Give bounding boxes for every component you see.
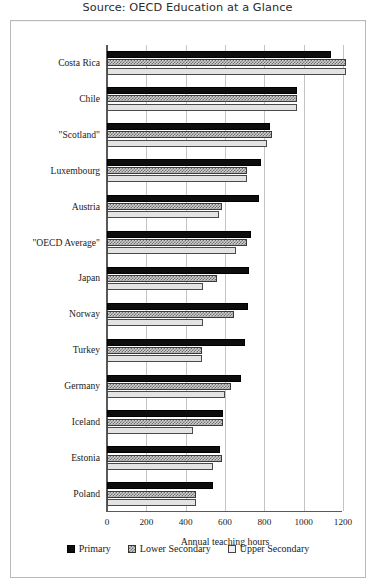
y-axis-label-iceland: Iceland <box>72 417 100 427</box>
category-row: Germany <box>107 368 342 404</box>
legend-label-upper-secondary: Upper Secondary <box>240 543 310 554</box>
category-row: "Scotland" <box>107 117 342 153</box>
bar-lower <box>107 239 247 246</box>
bar-upper <box>107 140 267 147</box>
bar-primary <box>107 267 249 274</box>
x-tick-label-1200: 1200 <box>334 517 352 527</box>
y-axis-label-turkey: Turkey <box>73 345 100 355</box>
y-axis-label-chile: Chile <box>79 94 100 104</box>
y-axis-label-poland: Poland <box>73 489 100 499</box>
bar-primary <box>107 410 223 417</box>
bar-upper <box>107 427 193 434</box>
x-tick-label-0: 0 <box>105 517 110 527</box>
bar-lower <box>107 131 272 138</box>
y-axis-label-germany: Germany <box>64 381 100 391</box>
chart-figure: Source: OECD Education at a Glance Annua… <box>0 0 375 584</box>
y-axis-label-austria: Austria <box>72 202 100 212</box>
category-row: Norway <box>107 296 342 332</box>
bar-primary <box>107 482 213 489</box>
bar-lower <box>107 95 297 102</box>
bar-upper <box>107 463 213 470</box>
bar-primary <box>107 51 331 58</box>
x-tick-label-400: 400 <box>179 517 193 527</box>
x-tick-label-600: 600 <box>218 517 232 527</box>
y-axis-label-oecdaverage: "OECD Average" <box>32 238 100 248</box>
legend-swatch-upper-secondary-icon <box>228 545 236 553</box>
x-tick-label-1000: 1000 <box>294 517 312 527</box>
plot-area: Annual teaching hours 020040060080010001… <box>106 45 342 512</box>
category-row: Turkey <box>107 332 342 368</box>
category-row: Costa Rica <box>107 45 342 81</box>
bar-lower <box>107 167 247 174</box>
legend-label-lower-secondary: Lower Secondary <box>140 543 211 554</box>
bar-upper <box>107 68 346 75</box>
category-row: Chile <box>107 81 342 117</box>
bar-primary <box>107 339 245 346</box>
category-row: Iceland <box>107 404 342 440</box>
bar-lower <box>107 275 217 282</box>
bar-lower <box>107 347 202 354</box>
legend-swatch-lower-secondary-icon <box>128 545 136 553</box>
legend-item-upper-secondary: Upper Secondary <box>228 543 310 554</box>
legend-label-primary: Primary <box>79 543 111 554</box>
category-row: Japan <box>107 261 342 297</box>
bar-lower <box>107 59 346 66</box>
gridline-1200 <box>343 45 344 511</box>
bar-primary <box>107 231 251 238</box>
bar-primary <box>107 375 241 382</box>
y-axis-label-norway: Norway <box>69 309 100 319</box>
bar-lower <box>107 419 223 426</box>
bar-upper <box>107 283 203 290</box>
x-tick-label-800: 800 <box>257 517 271 527</box>
category-row: Poland <box>107 476 342 512</box>
x-tick-label-200: 200 <box>139 517 153 527</box>
bar-primary <box>107 87 297 94</box>
bar-lower <box>107 203 222 210</box>
bar-upper <box>107 319 203 326</box>
category-row: Luxembourg <box>107 153 342 189</box>
y-axis-label-luxembourg: Luxembourg <box>51 166 100 176</box>
bar-upper <box>107 247 236 254</box>
y-axis-label-japan: Japan <box>78 273 100 283</box>
bar-lower <box>107 383 231 390</box>
bar-upper <box>107 104 297 111</box>
bar-lower <box>107 491 196 498</box>
bar-upper <box>107 355 202 362</box>
legend-swatch-primary-icon <box>67 545 75 553</box>
chart-title: Source: OECD Education at a Glance <box>0 1 375 14</box>
chart-legend: Primary Lower Secondary Upper Secondary <box>10 543 366 554</box>
bar-primary <box>107 446 220 453</box>
bar-lower <box>107 455 222 462</box>
bar-upper <box>107 391 225 398</box>
legend-item-lower-secondary: Lower Secondary <box>128 543 211 554</box>
bar-primary <box>107 159 261 166</box>
y-axis-label-estonia: Estonia <box>71 453 100 463</box>
bar-upper <box>107 175 247 182</box>
legend-item-primary: Primary <box>67 543 111 554</box>
bar-upper <box>107 211 219 218</box>
y-axis-label-costarica: Costa Rica <box>58 58 100 68</box>
bar-upper <box>107 499 196 506</box>
bar-primary <box>107 195 259 202</box>
category-row: "OECD Average" <box>107 225 342 261</box>
figure-frame: Annual teaching hours 020040060080010001… <box>10 20 366 578</box>
category-row: Austria <box>107 189 342 225</box>
bar-lower <box>107 311 234 318</box>
bar-primary <box>107 303 248 310</box>
bar-primary <box>107 123 270 130</box>
y-axis-label-scotland: "Scotland" <box>59 130 100 140</box>
category-row: Estonia <box>107 440 342 476</box>
